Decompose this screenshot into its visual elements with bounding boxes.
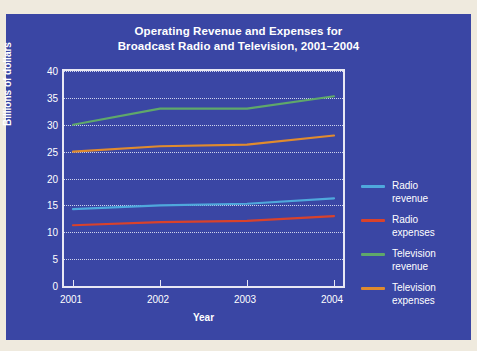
legend-item-label: Radioexpenses xyxy=(392,214,435,239)
legend-label-line-1: Television xyxy=(392,248,436,259)
series-line xyxy=(73,136,334,152)
legend-label-line-2: revenue xyxy=(392,193,428,204)
legend-item[interactable]: Radiorevenue xyxy=(361,180,469,205)
x-axis-tick-label: 2004 xyxy=(307,294,357,305)
chart-title-line-2: Broadcast Radio and Television, 2001–200… xyxy=(6,39,471,54)
legend-color-swatch xyxy=(361,185,385,188)
y-axis-tick-label: 15 xyxy=(32,200,58,211)
legend-color-swatch xyxy=(361,253,385,256)
legend-label-line-1: Radio xyxy=(392,214,418,225)
y-axis-tick-label: 40 xyxy=(32,66,58,77)
x-axis-tick-label: 2002 xyxy=(133,294,183,305)
legend-label-line-2: expenses xyxy=(392,227,435,238)
legend-color-swatch xyxy=(361,219,385,222)
y-axis-tick-label: 10 xyxy=(32,227,58,238)
series-line xyxy=(73,198,334,209)
legend-item-label: Televisionexpenses xyxy=(392,282,436,307)
legend-color-swatch xyxy=(361,287,385,290)
y-axis-tick-label: 35 xyxy=(32,92,58,103)
y-axis-label: Billions of dollars xyxy=(2,42,13,126)
legend-item-label: Radiorevenue xyxy=(392,180,428,205)
legend-item[interactable]: Televisionexpenses xyxy=(361,282,469,307)
y-axis-tick-label: 25 xyxy=(32,146,58,157)
y-axis-tick-label: 20 xyxy=(32,173,58,184)
series-line xyxy=(73,96,334,124)
legend-label-line-1: Television xyxy=(392,282,436,293)
x-axis-label: Year xyxy=(62,312,345,323)
chart-title-line-1: Operating Revenue and Expenses for xyxy=(6,24,471,39)
legend-item[interactable]: Radioexpenses xyxy=(361,214,469,239)
y-axis-tick-label: 30 xyxy=(32,119,58,130)
plot-area: 0510152025303540 xyxy=(62,69,345,288)
legend-item-label: Televisionrevenue xyxy=(392,248,436,273)
x-axis-tick-label: 2003 xyxy=(220,294,270,305)
y-axis-tick-label: 5 xyxy=(32,254,58,265)
y-axis-tick-label: 0 xyxy=(32,281,58,292)
chart-legend: RadiorevenueRadioexpensesTelevisionreven… xyxy=(361,180,469,316)
legend-label-line-1: Radio xyxy=(392,180,418,191)
legend-item[interactable]: Televisionrevenue xyxy=(361,248,469,273)
legend-label-line-2: expenses xyxy=(392,295,435,306)
x-axis-tick-label: 2001 xyxy=(46,294,96,305)
chart-figure: Operating Revenue and Expenses for Broad… xyxy=(6,14,471,340)
chart-title: Operating Revenue and Expenses for Broad… xyxy=(6,24,471,54)
legend-label-line-2: revenue xyxy=(392,261,428,272)
series-layer xyxy=(64,71,343,286)
series-line xyxy=(73,216,334,225)
